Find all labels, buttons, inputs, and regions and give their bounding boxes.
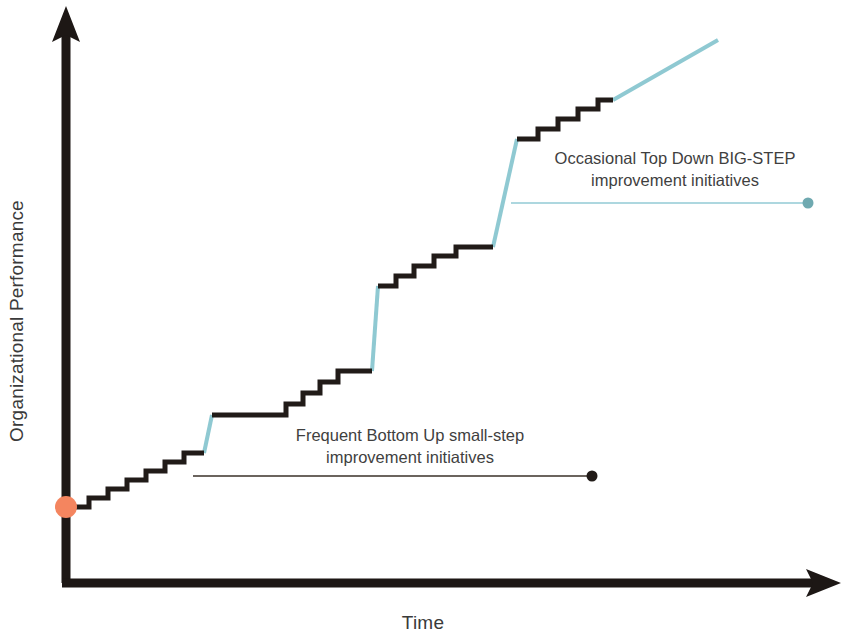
top-down-annotation-line-1: Occasional Top Down BIG-STEP [530, 148, 820, 170]
bottom-up-annotation: Frequent Bottom Up small-step improvemen… [245, 425, 575, 469]
big-step-riser-3 [493, 139, 517, 247]
start-point-dot [55, 496, 77, 518]
bottom-leader-endpoint-dot [587, 471, 598, 482]
staircase-chart-svg [0, 0, 846, 642]
staircase-segment-4 [517, 100, 613, 139]
marker-group [55, 198, 814, 519]
top-down-annotation: Occasional Top Down BIG-STEP improvement… [530, 148, 820, 192]
staircase-segment-2 [212, 371, 372, 415]
x-axis-label: Time [0, 612, 846, 634]
axes-group [52, 6, 841, 597]
y-axis-label: Organizational Performance [0, 0, 34, 642]
top-leader-endpoint-dot [803, 198, 814, 209]
diagram-canvas: Organizational Performance Time Occasion… [0, 0, 846, 642]
big-step-riser-2 [372, 286, 378, 371]
staircase-segment-1 [66, 453, 204, 507]
bottom-up-annotation-line-2: improvement initiatives [245, 447, 575, 469]
y-axis-label-text: Organizational Performance [6, 200, 28, 442]
top-down-annotation-line-2: improvement initiatives [530, 170, 820, 192]
bottom-up-annotation-line-1: Frequent Bottom Up small-step [245, 425, 575, 447]
staircase-segment-3 [378, 247, 493, 286]
big-step-final-ramp [613, 40, 718, 100]
x-axis-label-text: Time [402, 612, 444, 633]
big-step-riser-1 [204, 415, 212, 453]
